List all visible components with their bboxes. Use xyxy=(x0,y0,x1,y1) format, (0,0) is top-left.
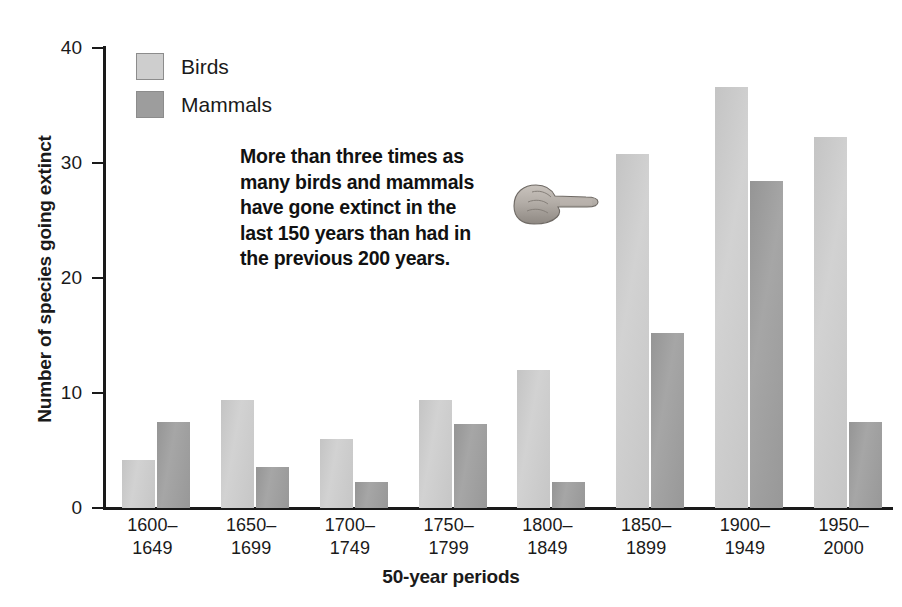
x-axis-tick-label-line: 1750– xyxy=(399,514,498,537)
legend-swatch-mammals xyxy=(136,91,164,118)
bar-mammals-1900-1949 xyxy=(750,181,783,508)
bar-birds-1900-1949 xyxy=(715,87,748,508)
bar-group xyxy=(419,48,487,508)
y-axis-tick-label: 20 xyxy=(36,268,82,287)
x-axis-tick-label-line: 1850– xyxy=(597,514,696,537)
annotation-line: last 150 years than had in xyxy=(240,221,518,247)
y-axis-tick-label: 0 xyxy=(36,498,82,517)
legend-item-birds: Birds xyxy=(136,47,272,85)
x-axis-tick-label-line: 1949 xyxy=(696,537,795,560)
annotation-line: More than three times as xyxy=(240,144,518,170)
x-axis-tick-label: 1900–1949 xyxy=(696,514,795,560)
bar-birds-1600-1649 xyxy=(122,460,155,508)
y-axis-tick-label: 30 xyxy=(36,153,82,172)
x-axis-tick-label-line: 1649 xyxy=(103,537,202,560)
x-axis-tick-label: 1650–1699 xyxy=(202,514,301,560)
pointing-hand-icon xyxy=(508,176,604,232)
legend-swatch-birds xyxy=(136,53,164,80)
bar-mammals-1700-1749 xyxy=(355,482,388,508)
y-axis-tick-label: 10 xyxy=(36,383,82,402)
x-axis-tick-label-line: 1600– xyxy=(103,514,202,537)
x-axis-tick-label: 1950–2000 xyxy=(794,514,893,560)
bar-birds-1750-1799 xyxy=(419,400,452,508)
x-axis-title: 50-year periods xyxy=(0,566,902,588)
x-axis-tick-label-line: 1849 xyxy=(498,537,597,560)
y-axis-tick-label: 40 xyxy=(36,38,82,57)
bar-mammals-1800-1849 xyxy=(552,482,585,508)
x-axis-tick-label: 1800–1849 xyxy=(498,514,597,560)
bar-mammals-1950-2000 xyxy=(849,422,882,508)
x-axis-tick-label-line: 2000 xyxy=(794,537,893,560)
x-axis-tick-label: 1750–1799 xyxy=(399,514,498,560)
bar-birds-1950-2000 xyxy=(814,137,847,508)
bar-mammals-1750-1799 xyxy=(454,424,487,508)
annotation-line: many birds and mammals xyxy=(240,170,518,196)
x-axis-tick-label-line: 1699 xyxy=(202,537,301,560)
x-axis-tick-label: 1850–1899 xyxy=(597,514,696,560)
x-axis-tick-label-line: 1650– xyxy=(202,514,301,537)
extinction-bar-chart: Number of species going extinct 01020304… xyxy=(0,0,902,607)
bar-group xyxy=(814,48,882,508)
bar-birds-1700-1749 xyxy=(320,439,353,508)
x-axis-tick-label-line: 1899 xyxy=(597,537,696,560)
bar-mammals-1600-1649 xyxy=(157,422,190,508)
x-axis-tick-label-line: 1800– xyxy=(498,514,597,537)
bar-mammals-1850-1899 xyxy=(651,333,684,508)
legend: Birds Mammals xyxy=(136,47,272,123)
annotation-callout: More than three times asmany birds and m… xyxy=(240,144,518,272)
x-axis-tick-label-line: 1950– xyxy=(794,514,893,537)
bar-group xyxy=(616,48,684,508)
bar-mammals-1650-1699 xyxy=(256,467,289,508)
legend-label-birds: Birds xyxy=(181,56,229,77)
x-axis-tick-label: 1700–1749 xyxy=(301,514,400,560)
x-axis-tick-label-line: 1900– xyxy=(696,514,795,537)
x-axis-tick-label-line: 1700– xyxy=(301,514,400,537)
bar-birds-1850-1899 xyxy=(616,154,649,508)
x-axis-tick-label: 1600–1649 xyxy=(103,514,202,560)
bar-group xyxy=(517,48,585,508)
bar-birds-1800-1849 xyxy=(517,370,550,508)
x-axis-tick-label-line: 1749 xyxy=(301,537,400,560)
x-axis-tick-labels: 1600–16491650–16991700–17491750–17991800… xyxy=(103,514,893,574)
x-axis-tick-label-line: 1799 xyxy=(399,537,498,560)
legend-item-mammals: Mammals xyxy=(136,85,272,123)
legend-label-mammals: Mammals xyxy=(181,94,272,115)
annotation-line: the previous 200 years. xyxy=(240,246,518,272)
bar-birds-1650-1699 xyxy=(221,400,254,508)
bar-group xyxy=(715,48,783,508)
annotation-line: have gone extinct in the xyxy=(240,195,518,221)
bar-group xyxy=(320,48,388,508)
